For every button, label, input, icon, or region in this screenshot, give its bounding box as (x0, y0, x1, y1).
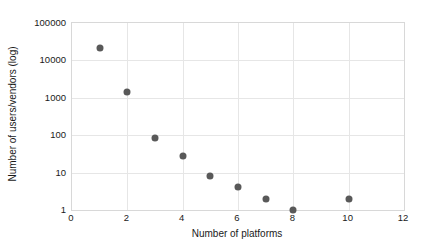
data-point (235, 184, 242, 191)
x-axis-tick-label: 0 (56, 212, 86, 223)
plot-area (71, 22, 405, 211)
x-axis-tick-label: 6 (222, 212, 252, 223)
x-axis-tick-label: 10 (333, 212, 363, 223)
data-point (290, 207, 297, 214)
data-point (124, 89, 131, 96)
data-point (152, 134, 159, 141)
x-axis-tick-label: 8 (277, 212, 307, 223)
gridline-vertical (293, 23, 294, 210)
data-point (345, 195, 352, 202)
y-axis-title-text: Number of users/vendors (log) (7, 46, 18, 181)
gridline-vertical (183, 23, 184, 210)
y-axis-tick-label: 10 (2, 166, 66, 177)
gridline-vertical (349, 23, 350, 210)
gridline-vertical (238, 23, 239, 210)
gridline-vertical (127, 23, 128, 210)
y-axis-tick-label: 1000 (2, 91, 66, 102)
y-axis-tick-label: 100 (2, 129, 66, 140)
data-point (262, 195, 269, 202)
x-axis-tick-label: 4 (167, 212, 197, 223)
y-axis-tick-label: 10000 (2, 54, 66, 65)
data-point (207, 173, 214, 180)
data-point (96, 45, 103, 52)
chart-figure: Number of users/vendors (log) 1101001000… (0, 0, 426, 252)
x-axis-tick-label: 12 (388, 212, 418, 223)
data-point (179, 152, 186, 159)
x-axis-title: Number of platforms (71, 228, 403, 239)
y-axis-title: Number of users/vendors (log) (4, 14, 20, 214)
x-axis-tick-label: 2 (111, 212, 141, 223)
y-axis-tick-label: 100000 (2, 17, 66, 28)
